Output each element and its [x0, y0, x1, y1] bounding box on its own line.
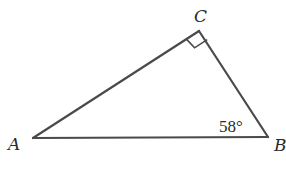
vertex-label-c: C	[194, 6, 207, 26]
vertex-label-b: B	[273, 135, 286, 155]
triangle-diagram: C A B 58°	[0, 0, 286, 177]
angle-label-b: 58°	[219, 117, 243, 136]
edge-ac	[33, 31, 199, 138]
edge-ab	[33, 137, 268, 138]
vertex-label-a: A	[6, 134, 20, 154]
